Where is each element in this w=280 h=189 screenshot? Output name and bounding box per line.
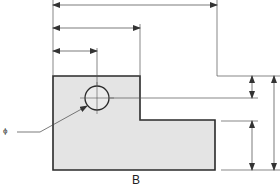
- part-body: [53, 76, 215, 170]
- technical-drawing: [0, 0, 280, 189]
- horizontal-dimension-lines: [53, 5, 217, 51]
- vertical-dimension-lines: [252, 76, 274, 170]
- diameter-symbol-label: ϕ: [3, 126, 7, 135]
- view-label: B: [132, 173, 140, 187]
